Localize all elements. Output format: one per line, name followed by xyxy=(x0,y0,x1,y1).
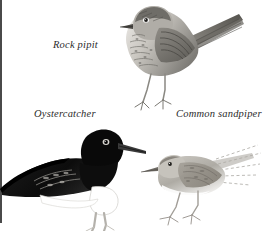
caption-rock-pipit: Rock pipit xyxy=(53,40,98,51)
bird-illustration-common-sandpiper xyxy=(140,133,263,229)
caption-common-sandpiper: Common sandpiper xyxy=(176,109,262,120)
bird-illustration-rock-pipit xyxy=(103,0,245,112)
caption-oystercatcher: Oystercatcher xyxy=(34,109,96,120)
bird-illustration-plate: Rock pipit Oystercatcher Common sandpipe… xyxy=(0,0,263,231)
bird-illustration-oystercatcher xyxy=(0,115,148,231)
